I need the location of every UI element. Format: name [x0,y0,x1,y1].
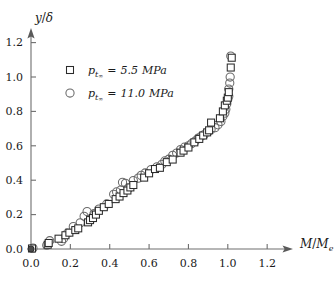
data-point-square [216,115,223,122]
scatter-chart-figure: 0.00.20.40.60.81.01.2 0.00.20.40.60.81.0… [0,0,336,283]
legend-entry-11MPa: pt∞=11.0MPa [66,87,174,102]
y-tick-label: 0.0 [6,243,24,256]
x-axis-tick-labels: 0.00.20.40.60.81.01.2 [22,257,276,270]
data-point-square [156,164,163,171]
origin-marker [28,246,34,252]
x-axis-ticks [31,244,267,249]
data-point-square [206,127,213,134]
x-tick-label: 0.2 [62,257,80,270]
data-point-square [228,54,235,61]
data-point-circle [226,73,234,81]
data-series-11MPa [29,52,235,252]
data-point-square [227,64,234,71]
legend-unit-1: MPa [141,64,167,77]
data-point-square [169,156,176,163]
x-tick-label: 0.0 [22,257,40,270]
x-axis-numerator: M [299,237,313,251]
x-axis-denominator-subscript: e [329,244,334,253]
x-axis-title: M/Me [299,237,334,253]
legend-value-2: 11.0 [120,87,145,100]
data-point-square [55,235,62,242]
y-tick-label: 1.2 [6,36,24,49]
x-axis-denominator: M [315,237,329,251]
data-point-square [45,239,52,246]
legend-equals-1: = [107,64,116,77]
legend-equals-2: = [107,87,116,100]
y-tick-label: 1.0 [6,71,24,84]
svg-text:M/Me: M/Me [299,237,334,253]
data-point-square [130,182,137,189]
data-point-square [75,225,82,232]
y-axis-denominator: δ [46,11,53,25]
legend-symbol-1: p [88,64,95,77]
plot-canvas: 0.00.20.40.60.81.01.2 0.00.20.40.60.81.0… [0,0,336,283]
y-tick-label: 0.2 [6,208,24,221]
legend-unit-2: MPa [148,87,174,100]
data-point-square [105,200,112,207]
y-tick-label: 0.8 [6,105,24,118]
legend-entry-5.5MPa: pt∞=5.5MPa [67,64,167,79]
x-tick-label: 0.4 [101,257,119,270]
y-axis-ticks [31,43,36,249]
legend: pt∞=5.5MPa pt∞=11.0MPa [66,64,174,102]
y-axis-tick-labels: 0.00.20.40.60.81.01.2 [6,36,24,255]
svg-text:pt∞=11.0MPa: pt∞=11.0MPa [88,87,174,102]
y-tick-label: 0.4 [6,174,24,187]
legend-subsubscript-1: ∞ [98,72,103,79]
data-point-square [225,89,232,96]
svg-text:y/δ: y/δ [34,11,53,25]
y-axis [27,28,34,249]
legend-marker-open-circle [66,89,74,97]
svg-text:pt∞=5.5MPa: pt∞=5.5MPa [88,64,167,79]
x-tick-label: 0.8 [180,257,198,270]
legend-subsubscript-2: ∞ [98,95,103,102]
legend-marker-open-square [67,67,74,74]
y-tick-label: 0.6 [6,140,24,153]
data-series-5.5MPa [28,54,235,252]
x-tick-label: 1.2 [258,257,276,270]
x-tick-label: 1.0 [219,257,237,270]
legend-symbol-2: p [88,87,95,100]
y-axis-title: y/δ [34,11,53,25]
legend-value-1: 5.5 [120,64,138,77]
data-point-square [208,119,215,126]
x-tick-label: 0.6 [140,257,158,270]
